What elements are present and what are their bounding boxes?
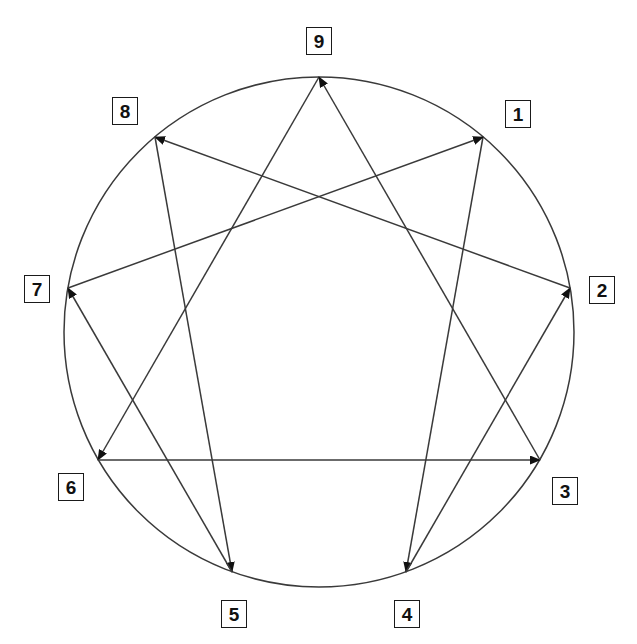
connection-lines	[68, 77, 570, 572]
point-label-4[interactable]: 4	[394, 600, 420, 628]
point-label-8[interactable]: 8	[112, 97, 138, 125]
enneagram-canvas	[0, 0, 637, 644]
point-label-3[interactable]: 3	[552, 477, 578, 505]
point-label-7[interactable]: 7	[24, 275, 50, 303]
point-label-6[interactable]: 6	[58, 473, 84, 501]
connection-line-3-to-9	[319, 77, 540, 460]
connection-line-9-to-6	[98, 77, 319, 460]
outer-circle	[64, 77, 574, 587]
point-label-9[interactable]: 9	[306, 27, 332, 55]
point-label-2[interactable]: 2	[589, 276, 615, 304]
point-label-1[interactable]: 1	[505, 100, 531, 128]
point-label-5[interactable]: 5	[221, 600, 247, 628]
enneagram-diagram: 123456789	[0, 0, 637, 644]
